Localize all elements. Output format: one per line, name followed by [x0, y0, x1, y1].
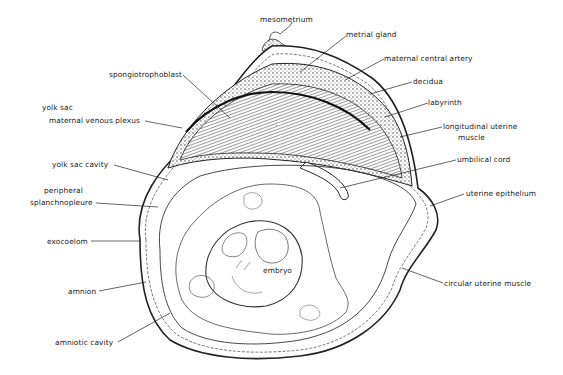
- label-embryo: embryo: [263, 266, 292, 275]
- label-umbilical-cord: umbilical cord: [457, 155, 510, 164]
- label-exocoelom: exocoelom: [47, 237, 88, 246]
- label-spongiotrophoblast: spongiotrophoblast: [109, 70, 182, 79]
- label-longitudinal-uterine-muscle-line2: muscle: [458, 133, 485, 142]
- label-decidua: decidua: [413, 77, 443, 86]
- label-splanchnopleure: splanchnopleure: [30, 198, 93, 207]
- label-uterine-epithelium: uterine epithelium: [466, 189, 536, 198]
- label-maternal-central-artery: maternal central artery: [384, 54, 473, 63]
- label-longitudinal-uterine-muscle: longitudinal uterine: [443, 122, 517, 131]
- label-peripheral: peripheral: [44, 186, 83, 195]
- label-circular-uterine-muscle: circular uterine muscle: [444, 279, 531, 288]
- label-yolk-sac: yolk sac: [42, 103, 73, 112]
- uterus-cross-section-diagram: mesometrium metrial gland maternal centr…: [0, 0, 563, 375]
- label-maternal-venous-plexus: maternal venous plexus: [49, 116, 140, 125]
- label-amnion: amnion: [68, 287, 96, 296]
- label-yolk-sac-cavity: yolk sac cavity: [52, 160, 108, 169]
- anatomy-drawing: [0, 0, 563, 375]
- label-mesometrium: mesometrium: [260, 15, 313, 24]
- label-labyrinth: labyrinth: [428, 98, 462, 107]
- label-metrial-gland: metrial gland: [346, 30, 397, 39]
- label-amniotic-cavity: amniotic cavity: [55, 338, 113, 347]
